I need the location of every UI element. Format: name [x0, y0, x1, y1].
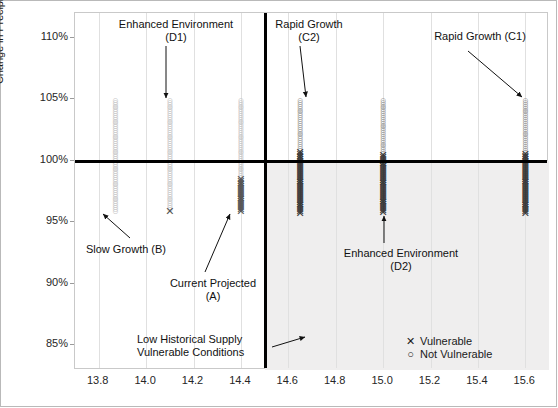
- arrow-b: [103, 214, 130, 238]
- arrow-c2: [300, 46, 306, 97]
- arrow-a: [205, 214, 230, 272]
- arrow-c1: [468, 51, 522, 97]
- arrow-lhs: [272, 337, 305, 347]
- precipitation-vulnerability-chart: Change in Precipitation from Historical …: [0, 0, 558, 408]
- annotation-arrows: [0, 0, 558, 408]
